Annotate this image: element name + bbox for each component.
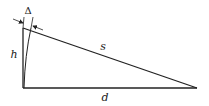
extension-line-right — [31, 17, 33, 28]
offset-arrow-left — [13, 19, 23, 23]
extension-line-left — [23, 17, 24, 28]
hypotenuse-label: s — [100, 40, 106, 53]
deflection-curve — [24, 28, 31, 88]
offset-label: Δ — [24, 5, 31, 16]
height-label: h — [10, 48, 17, 61]
triangle-diagram: Δ h s d — [0, 0, 209, 106]
hypotenuse-side — [23, 28, 197, 88]
base-label: d — [101, 91, 108, 104]
offset-arrow-right — [33, 26, 43, 30]
